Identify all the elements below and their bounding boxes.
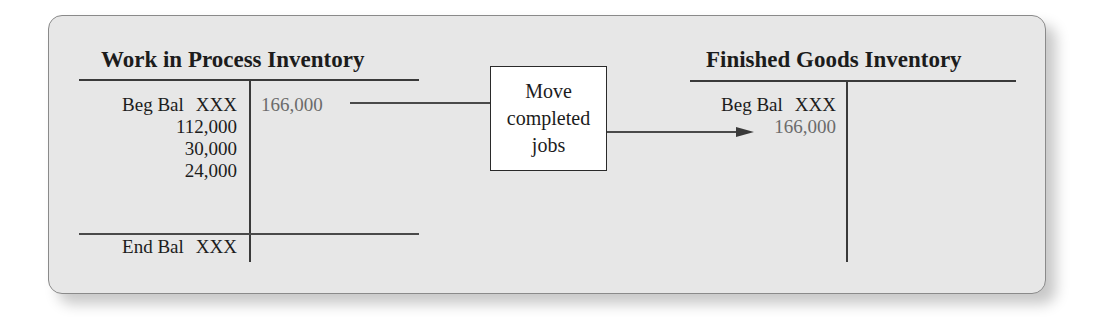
arrow-head-icon: [736, 127, 754, 137]
fg-top-rule: [690, 80, 1016, 82]
fg-beg-bal-label: Beg Bal: [721, 94, 783, 115]
fg-beg-bal-amount: XXX: [795, 94, 836, 115]
fg-account-title: Finished Goods Inventory: [706, 48, 962, 71]
fg-debit-beg-bal: Beg BalXXX: [721, 94, 836, 116]
fg-center-rule: [846, 81, 848, 262]
fg-debit-transfer-amount: 166,000: [774, 116, 836, 138]
